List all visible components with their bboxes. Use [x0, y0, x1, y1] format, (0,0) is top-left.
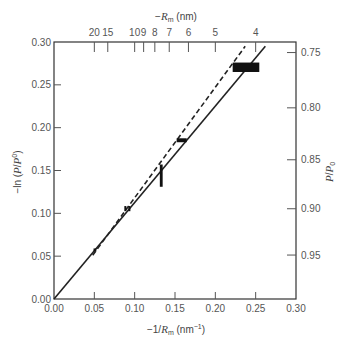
- y-tick-label: 0.10: [32, 208, 52, 219]
- x-axis-label: −1/Rm (nm−1): [147, 323, 205, 336]
- plot-frame: [54, 42, 296, 299]
- y-tick-label: 0.00: [32, 294, 52, 305]
- y-axis-left: 0.000.050.100.150.200.250.30: [32, 37, 61, 305]
- y-tick-label: 0.25: [32, 79, 52, 90]
- right-tick-label: 0.85: [301, 154, 321, 165]
- x-tick-label: 0.00: [44, 303, 64, 314]
- data-point: [124, 206, 126, 211]
- x-axis-label-sup: −1: [194, 323, 202, 330]
- top-tick-label: 15: [102, 27, 114, 38]
- top-tick-label: 9: [141, 27, 147, 38]
- y-tick-label: 0.30: [32, 37, 52, 48]
- x-tick-label: 0.05: [85, 303, 105, 314]
- top-tick-label: 5: [213, 27, 219, 38]
- x-axis-label-unit: (nm: [174, 324, 194, 335]
- top-tick-label: 10: [129, 27, 141, 38]
- right-tick-label: 0.75: [301, 47, 321, 58]
- right-axis-label-sub: 0: [329, 162, 336, 166]
- right-tick-label: 0.95: [301, 250, 321, 261]
- y-tick-label: 0.20: [32, 122, 52, 133]
- x-tick-label: 0.10: [125, 303, 145, 314]
- solid-line: [54, 46, 265, 299]
- top-tick-label: 20: [89, 27, 101, 38]
- x-axis-label-pre: −1/: [147, 324, 161, 335]
- x-axis-bottom: 0.000.050.100.150.200.250.30: [44, 292, 306, 314]
- y-axis-label: −ln (P/P0): [11, 150, 23, 193]
- x-tick-label: 0.25: [246, 303, 266, 314]
- x-tick-label: 0.20: [206, 303, 226, 314]
- data-point: [177, 138, 187, 142]
- y-tick-label: 0.05: [32, 251, 52, 262]
- y-axis-right: 0.750.800.850.900.95: [287, 47, 321, 261]
- x-tick-label: 0.15: [165, 303, 185, 314]
- dashed-line: [93, 46, 245, 255]
- y-axis-label-post: ): [12, 150, 23, 153]
- x-axis-top: 201510987654: [89, 27, 259, 52]
- top-tick-label: 8: [152, 27, 158, 38]
- x-tick-label: 0.30: [286, 303, 306, 314]
- y-axis-label-pre: −ln (: [12, 173, 23, 193]
- top-tick-label: 4: [253, 27, 259, 38]
- top-tick-label: 7: [166, 27, 172, 38]
- data-point: [128, 206, 130, 211]
- data-point: [94, 248, 97, 251]
- y-tick-label: 0.15: [32, 165, 52, 176]
- data-point: [233, 63, 260, 72]
- series-group: [54, 46, 265, 299]
- data-point: [160, 165, 163, 187]
- right-tick-label: 0.80: [301, 102, 321, 113]
- top-axis-label: −Rm (nm): [155, 10, 197, 23]
- top-tick-label: 6: [186, 27, 192, 38]
- x-axis-label-post: ): [202, 324, 205, 335]
- right-axis-label: P/P0: [323, 162, 336, 183]
- top-axis-label-unit: (nm): [174, 11, 197, 22]
- right-tick-label: 0.90: [301, 203, 321, 214]
- chart: 0.000.050.100.150.200.250.30 0.000.050.1…: [0, 0, 343, 340]
